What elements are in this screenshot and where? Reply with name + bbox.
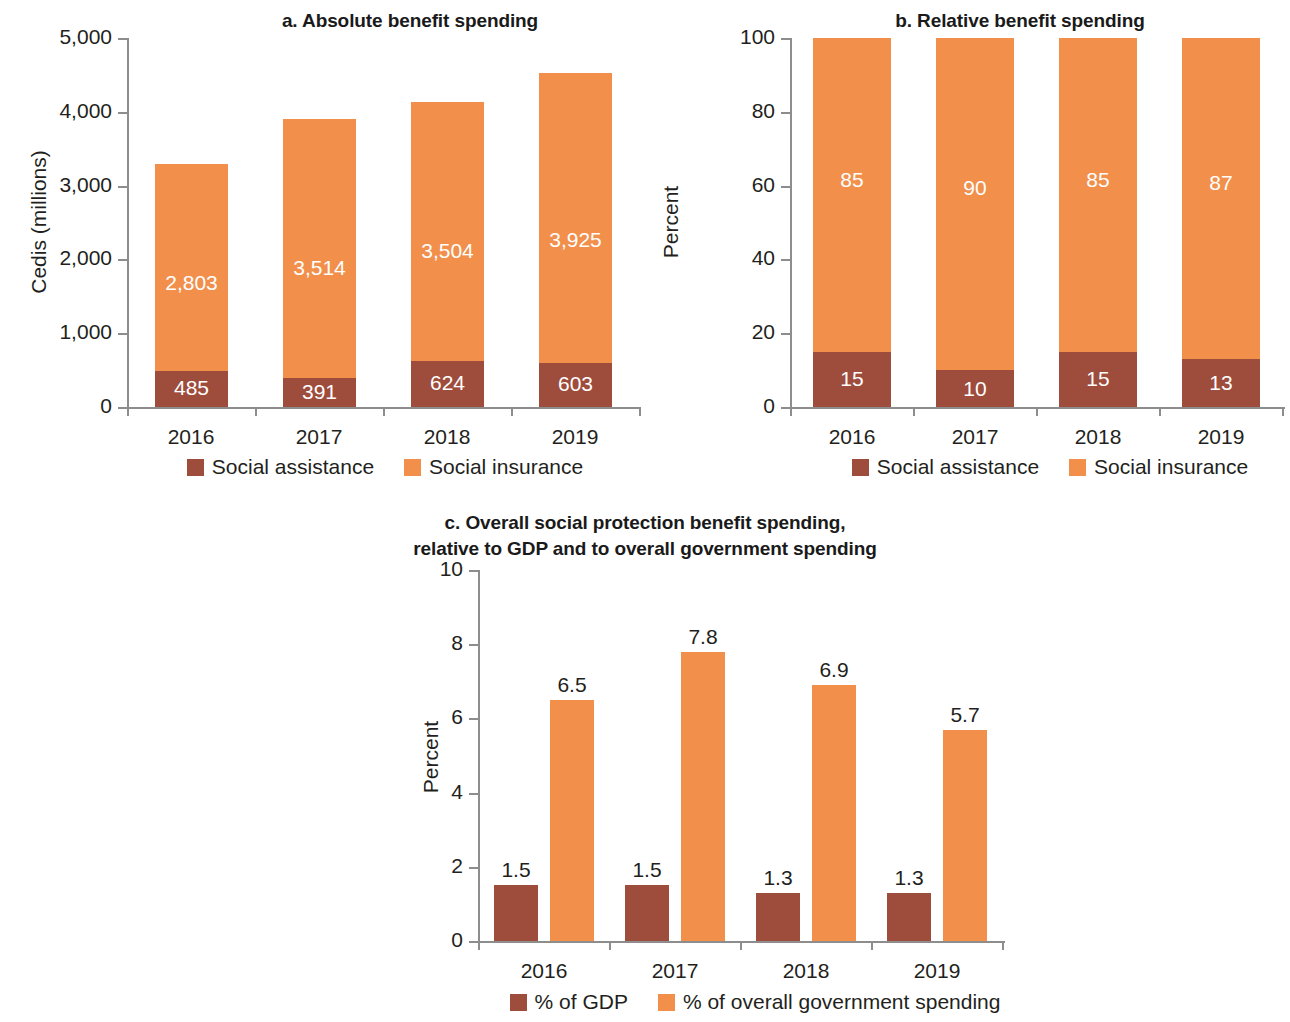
panel-b-y-axis-title: Percent: [659, 186, 683, 258]
panel-a-y-tick: [118, 333, 127, 335]
panel-b-x-tick: [790, 407, 792, 416]
panel-c-bar-pct-govt-spending-2016[interactable]: [550, 700, 594, 941]
panel-b-x-tick-label-2019: 2019: [1161, 425, 1281, 449]
panel-b-y-tick-label: 60: [675, 173, 775, 197]
panel-c-bar-pct-govt-spending-2019[interactable]: [943, 730, 987, 941]
panel-a-legend-item-1[interactable]: Social assistance: [187, 455, 374, 479]
panel-b-legend-item-2[interactable]: Social insurance: [1069, 455, 1248, 479]
panel-a-x-tick: [511, 407, 513, 416]
panel-a-y-tick: [118, 186, 127, 188]
panel-c-bar-pct-govt-spending-2018[interactable]: [812, 685, 856, 941]
panel-b-x-tick: [1036, 407, 1038, 416]
panel-a-value-social-insurance-2016: 2,803: [155, 271, 228, 295]
panel-b-value-social-insurance-2019: 87: [1182, 171, 1260, 195]
panel-c-legend-label-2: % of overall government spending: [683, 990, 1001, 1014]
panel-c-y-tick-label: 6: [363, 705, 463, 729]
panel-c-x-tick-label-2016: 2016: [484, 959, 604, 983]
panel-a-legend-swatch-2: [404, 459, 421, 476]
panel-c-y-tick: [469, 718, 478, 720]
panel-c-legend-label-1: % of GDP: [535, 990, 628, 1014]
panel-a-bar-social-insurance-2018[interactable]: [411, 102, 484, 361]
panel-c-y-tick-label: 8: [363, 631, 463, 655]
panel-c-x-tick: [609, 941, 611, 950]
panel-a-legend-label-2: Social insurance: [429, 455, 583, 479]
panel-a-value-social-insurance-2019: 3,925: [539, 228, 612, 252]
panel-c-title-line2: relative to GDP and to overall governmen…: [345, 536, 945, 562]
panel-a-value-social-assistance-2017: 391: [283, 380, 356, 404]
panel-a-y-tick-label: 4,000: [12, 99, 112, 123]
panel-b-y-tick-label: 0: [675, 394, 775, 418]
panel-c-y-tick-label: 2: [363, 854, 463, 878]
panel-b-y-tick: [781, 112, 790, 114]
panel-c-legend-swatch-2: [658, 994, 675, 1011]
panel-b-bar-social-insurance-2017[interactable]: [936, 38, 1014, 370]
panel-c-y-tick: [469, 793, 478, 795]
panel-b-y-tick: [781, 333, 790, 335]
panel-b-value-social-assistance-2017: 10: [936, 377, 1014, 401]
panel-c-value-pct-govt-spending-2017: 7.8: [653, 625, 753, 649]
panel-c-x-tick-label-2018: 2018: [746, 959, 866, 983]
panel-b-legend-label-1: Social assistance: [877, 455, 1039, 479]
panel-a-value-social-insurance-2018: 3,504: [411, 239, 484, 263]
panel-b-bar-social-insurance-2018[interactable]: [1059, 38, 1137, 352]
panel-c-value-pct-govt-spending-2019: 5.7: [915, 703, 1015, 727]
panel-b-legend-label-2: Social insurance: [1094, 455, 1248, 479]
panel-a-x-tick: [255, 407, 257, 416]
panel-b-bar-social-insurance-2019[interactable]: [1182, 38, 1260, 359]
panel-c-legend-swatch-1: [510, 994, 527, 1011]
panel-c-legend-item-2[interactable]: % of overall government spending: [658, 990, 1001, 1014]
panel-c-y-tick-label: 0: [363, 928, 463, 952]
panel-c-bar-pct-gdp-2018[interactable]: [756, 893, 800, 941]
panel-c-value-pct-gdp-2018: 1.3: [728, 866, 828, 890]
panel-c-bar-pct-gdp-2017[interactable]: [625, 885, 669, 941]
panel-a-value-social-assistance-2016: 485: [155, 376, 228, 400]
panel-b-x-tick-label-2017: 2017: [915, 425, 1035, 449]
panel-a-y-tick: [118, 112, 127, 114]
panel-a-y-tick-label: 5,000: [12, 25, 112, 49]
panel-a-y-tick-label: 0: [12, 394, 112, 418]
panel-b-value-social-assistance-2019: 13: [1182, 371, 1260, 395]
panel-b-y-tick-label: 20: [675, 320, 775, 344]
panel-c-legend-item-1[interactable]: % of GDP: [510, 990, 628, 1014]
panel-c-title-line1: c. Overall social protection benefit spe…: [375, 510, 915, 536]
panel-a-y-tick: [118, 38, 127, 40]
panel-c-x-tick-label-2019: 2019: [877, 959, 997, 983]
panel-b-x-tick: [913, 407, 915, 416]
panel-a-bar-social-insurance-2016[interactable]: [155, 164, 228, 371]
panel-b-y-tick: [781, 407, 790, 409]
panel-a-value-social-assistance-2019: 603: [539, 372, 612, 396]
panel-c-bar-pct-gdp-2016[interactable]: [494, 885, 538, 941]
panel-c-x-tick-label-2017: 2017: [615, 959, 735, 983]
panel-b-legend-swatch-2: [1069, 459, 1086, 476]
panel-c-bar-pct-gdp-2019[interactable]: [887, 893, 931, 941]
panel-c-value-pct-gdp-2019: 1.3: [859, 866, 959, 890]
panel-b-y-tick-label: 40: [675, 246, 775, 270]
panel-c-bar-pct-govt-spending-2017[interactable]: [681, 652, 725, 941]
panel-b-title: b. Relative benefit spending: [830, 8, 1210, 34]
panel-c-y-axis-line: [478, 570, 480, 942]
panel-a-legend-item-2[interactable]: Social insurance: [404, 455, 583, 479]
panel-b-value-social-insurance-2018: 85: [1059, 168, 1137, 192]
panel-c-y-tick: [469, 570, 478, 572]
panel-b-value-social-insurance-2017: 90: [936, 176, 1014, 200]
panel-b-y-tick: [781, 38, 790, 40]
panel-a-y-tick-label: 1,000: [12, 320, 112, 344]
panel-a-title: a. Absolute benefit spending: [180, 8, 640, 34]
panel-b-legend-item-1[interactable]: Social assistance: [852, 455, 1039, 479]
panel-b-legend: Social assistanceSocial insurance: [815, 455, 1285, 479]
panel-c-y-axis-title: Percent: [419, 721, 443, 793]
panel-b-bar-social-insurance-2016[interactable]: [813, 38, 891, 352]
panel-a-bar-social-insurance-2017[interactable]: [283, 119, 356, 378]
panel-c-x-axis-line: [478, 941, 1005, 943]
panel-b-value-social-insurance-2016: 85: [813, 168, 891, 192]
panel-c-y-tick: [469, 644, 478, 646]
panel-a-value-social-insurance-2017: 3,514: [283, 256, 356, 280]
panel-b-x-tick: [1282, 407, 1284, 416]
panel-b-value-social-assistance-2016: 15: [813, 367, 891, 391]
panel-c-value-pct-govt-spending-2016: 6.5: [522, 673, 622, 697]
panel-a-value-social-assistance-2018: 624: [411, 371, 484, 395]
panel-a-bar-social-insurance-2019[interactable]: [539, 73, 612, 363]
panel-a-x-tick-label-2016: 2016: [131, 425, 251, 449]
panel-b-y-axis-line: [790, 38, 792, 408]
panel-b-y-tick: [781, 186, 790, 188]
